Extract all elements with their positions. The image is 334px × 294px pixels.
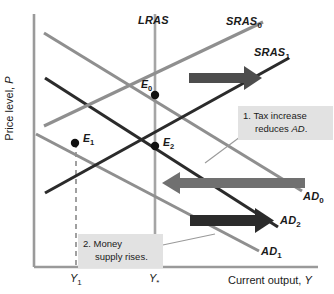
ad-increase-arrow	[190, 208, 274, 233]
e0-label-text: E	[141, 78, 148, 90]
sras1-label: SRAS1	[254, 46, 290, 61]
x-tick-label-y1: Y1	[70, 272, 82, 287]
sras0-label-sub: 0	[257, 21, 262, 30]
y-axis-title-text: Price level, P	[3, 76, 15, 140]
ad2-label-sub: 2	[296, 220, 301, 229]
ad1-label-sub: 1	[277, 251, 282, 260]
ad0-label-sub: 0	[319, 196, 324, 205]
e0-label: E0	[141, 78, 152, 94]
x-tick-label-ystar: Y*	[149, 272, 159, 287]
money-callout-leader	[158, 234, 215, 246]
e2-label: E2	[163, 136, 174, 152]
x-tick-y1-sub: 1	[77, 278, 81, 287]
sras0-label-text: SRAS	[226, 15, 257, 27]
ad0-label-text: AD	[303, 190, 319, 202]
e1-label-sub: 1	[90, 138, 94, 147]
lras-label: LRAS	[138, 14, 169, 27]
ad0-label: AD0	[303, 190, 324, 205]
sras0-label: SRAS0	[226, 15, 262, 30]
e1-label: E1	[83, 132, 94, 148]
ad1-label-text: AD	[261, 245, 277, 257]
lras-label-text: LRAS	[138, 14, 169, 26]
e0-label-sub: 0	[148, 84, 152, 93]
equilibrium-point-e2	[151, 142, 159, 150]
callout-money-supply: 2. Money supply rises.	[78, 234, 163, 268]
e2-label-text: E	[163, 136, 170, 148]
e2-label-sub: 2	[170, 142, 174, 151]
x-axis-title: Current output, Y	[228, 274, 312, 287]
callout-money-line2: supply rises.	[83, 251, 157, 264]
x-axis-title-text: Current output, Y	[228, 274, 312, 286]
ad2-curve	[45, 78, 278, 227]
y-axis-title: Price level, P	[3, 76, 16, 140]
sras1-label-text: SRAS	[254, 46, 285, 58]
callout-tax-increase: 1. Tax increase reduces AD.	[238, 106, 333, 140]
x-tick-ystar-sub: *	[156, 278, 159, 287]
equilibrium-point-e1	[71, 139, 79, 147]
callout-tax-line1: 1. Tax increase	[243, 110, 307, 121]
ad-as-diagram: Price level, P Current output, Y LRAS SR…	[0, 0, 334, 294]
callout-tax-line2: reduces AD.	[243, 123, 327, 136]
ad1-label: AD1	[261, 245, 282, 260]
ad2-label: AD2	[280, 214, 301, 229]
sras1-label-sub: 1	[285, 52, 290, 61]
ad2-label-text: AD	[280, 214, 296, 226]
sras-shift-arrow	[189, 66, 262, 90]
callout-money-line1: 2. Money	[83, 238, 122, 249]
ad-decrease-arrow	[162, 172, 305, 194]
e1-label-text: E	[83, 132, 90, 144]
